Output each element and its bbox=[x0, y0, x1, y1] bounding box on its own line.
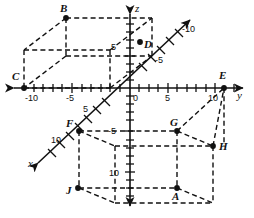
vertex-G bbox=[174, 128, 180, 134]
vertex-D bbox=[137, 39, 143, 45]
edge-G-H bbox=[177, 131, 213, 146]
coordinate-diagram: B C D E F G H J A z y x 5 -5 10 -10 -5 0… bbox=[0, 0, 254, 218]
lower-right-prism bbox=[79, 88, 224, 203]
x-tick-5: 5 bbox=[83, 104, 88, 114]
z-axis-label: z bbox=[134, 2, 140, 14]
upper-left-prism bbox=[24, 18, 152, 88]
y-tick-neg10: -10 bbox=[25, 93, 38, 103]
vertex-F bbox=[76, 128, 82, 134]
diagram-canvas: B C D E F G H J A z y x 5 -5 10 -10 -5 0… bbox=[0, 0, 254, 218]
edge-B-top-left bbox=[24, 18, 66, 50]
edge-A-H-diag bbox=[177, 188, 213, 203]
label-C: C bbox=[12, 70, 20, 82]
x-axis-label: x bbox=[27, 157, 33, 169]
y-tick-5: 5 bbox=[165, 93, 170, 103]
label-H: H bbox=[218, 140, 228, 152]
edge-J-diag bbox=[79, 188, 115, 203]
vertex-labels: B C D E F G H J A bbox=[12, 2, 228, 202]
vertex-B bbox=[63, 15, 69, 21]
x-tick-neg10: -10 bbox=[182, 24, 195, 34]
label-B: B bbox=[59, 2, 67, 14]
label-G: G bbox=[170, 116, 178, 128]
y-axis-tick-labels: -10 -5 0 5 10 bbox=[25, 93, 218, 103]
vertex-markers bbox=[21, 15, 227, 191]
label-A: A bbox=[171, 190, 179, 202]
vertex-C bbox=[21, 85, 27, 91]
y-tick-neg5: -5 bbox=[66, 93, 74, 103]
y-axis-label: y bbox=[236, 89, 242, 101]
z-tick-neg5: -5 bbox=[108, 126, 116, 136]
z-tick-5: 5 bbox=[111, 42, 116, 52]
y-axis bbox=[14, 83, 243, 93]
z-tick-neg10: 10 bbox=[109, 168, 119, 178]
y-tick-10: 10 bbox=[208, 93, 218, 103]
y-tick-0: 0 bbox=[133, 93, 138, 103]
edge-bottom-left bbox=[24, 56, 66, 88]
vertex-E bbox=[221, 85, 227, 91]
x-tick-10: 10 bbox=[51, 135, 61, 145]
vertex-J bbox=[75, 185, 81, 191]
vertex-H bbox=[210, 143, 216, 149]
label-D: D bbox=[143, 38, 152, 50]
z-axis bbox=[125, 14, 135, 206]
x-tick-neg5: -5 bbox=[155, 55, 163, 65]
label-F: F bbox=[65, 117, 74, 129]
label-J: J bbox=[65, 184, 72, 196]
label-E: E bbox=[218, 69, 226, 81]
